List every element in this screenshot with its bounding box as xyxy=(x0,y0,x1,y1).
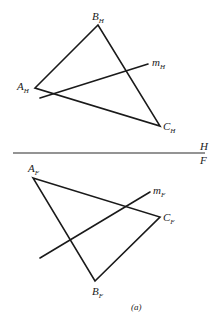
label-b-h: BH xyxy=(92,10,105,25)
triangle-abc-f xyxy=(33,178,160,281)
figure-caption: (a) xyxy=(131,302,142,312)
fold-label-f: F xyxy=(199,154,207,166)
label-a-f: AF xyxy=(27,162,40,177)
label-a-h: AH xyxy=(16,80,30,95)
triangle-front-view xyxy=(33,178,160,281)
label-m-f: mF xyxy=(153,184,166,199)
triangle-top-view xyxy=(35,25,160,126)
label-c-f: CF xyxy=(163,211,175,226)
line-m-f xyxy=(40,192,150,258)
label-m-h: mH xyxy=(152,56,166,71)
fold-label-h: H xyxy=(199,140,209,152)
descriptive-geometry-diagram: BH AH CH mH H F AF CF BF mF (a) xyxy=(0,0,216,317)
label-b-f: BF xyxy=(92,285,104,300)
label-c-h: CH xyxy=(163,120,176,135)
triangle-abc-h xyxy=(35,25,160,126)
